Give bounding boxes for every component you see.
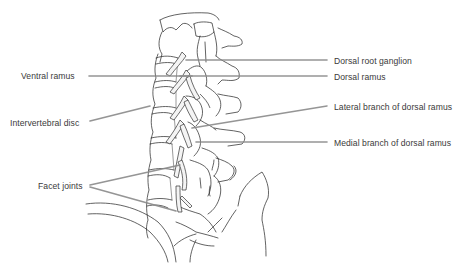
vertebral-column bbox=[86, 13, 269, 262]
label-lateral-branch: Lateral branch of dorsal ramus bbox=[334, 102, 452, 112]
label-dorsal-root-ganglion: Dorsal root ganglion bbox=[334, 56, 412, 66]
spine-illustration bbox=[0, 0, 462, 263]
leader-intervertebral-disc bbox=[90, 106, 150, 121]
leader-facet-joint-upper bbox=[90, 165, 180, 185]
leader-lateral-branch bbox=[192, 106, 327, 128]
label-dorsal-ramus: Dorsal ramus bbox=[334, 72, 386, 82]
leader-facet-joint-lower bbox=[90, 187, 176, 211]
label-intervertebral-disc: Intervertebral disc bbox=[10, 118, 79, 128]
label-ventral-ramus: Ventral ramus bbox=[21, 71, 75, 81]
label-facet-joints: Facet joints bbox=[38, 181, 83, 191]
spine-nerve-diagram: Dorsal root ganglion Dorsal ramus Latera… bbox=[0, 0, 462, 263]
leader-lines bbox=[89, 60, 327, 211]
label-medial-branch: Medial branch of dorsal ramus bbox=[334, 138, 451, 148]
